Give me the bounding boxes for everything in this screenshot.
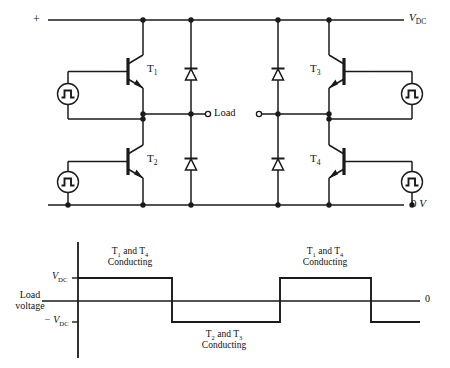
y-axis-label-line2: voltage bbox=[15, 300, 44, 311]
pulse-source-icon-g3 bbox=[402, 84, 423, 105]
t4-letter: T bbox=[310, 152, 317, 164]
ann3-line2: Conducting bbox=[303, 257, 347, 267]
transistor-label-T4: T4 bbox=[310, 153, 320, 167]
top-rail-label-v: V bbox=[409, 11, 416, 23]
ann2-line2: Conducting bbox=[202, 340, 246, 350]
pulse-source-icon-g2 bbox=[58, 172, 79, 193]
t1-letter: T bbox=[147, 62, 154, 74]
transistor-label-T2: T2 bbox=[147, 153, 157, 167]
circuit-and-waveform-svg bbox=[0, 0, 450, 368]
t1-index: 1 bbox=[154, 68, 158, 77]
open-terminal-icon-right bbox=[256, 111, 261, 116]
waveform-tick-positive: VDC bbox=[52, 271, 68, 284]
ann1-line2: Conducting bbox=[108, 257, 152, 267]
transistor-T2 bbox=[80, 145, 143, 178]
waveform-annotation-1: T1 and T4 Conducting bbox=[90, 247, 170, 268]
t4-index: 4 bbox=[317, 158, 321, 167]
transistor-label-T1: T1 bbox=[147, 63, 157, 77]
load-label: Load bbox=[214, 108, 236, 119]
top-rail-label-sub: DC bbox=[416, 17, 426, 26]
waveform-y-axis-label: Load voltage bbox=[8, 289, 52, 311]
figure-canvas: + VDC 0 V T1 T2 T3 T4 Load Load voltage … bbox=[0, 0, 450, 368]
top-rail-label: VDC bbox=[409, 12, 426, 26]
ann1-mid: and T bbox=[121, 246, 145, 256]
waveform-tick-negative: − VDC bbox=[44, 315, 69, 328]
diode-icon-d2 bbox=[185, 159, 198, 171]
waveform-trace bbox=[78, 278, 420, 322]
transistor-T3 bbox=[329, 55, 372, 88]
junction-dots bbox=[65, 17, 414, 207]
bottom-rail-label-text: 0 bbox=[411, 197, 419, 209]
transistor-T1 bbox=[105, 55, 143, 88]
waveform-zero-label: 0 bbox=[425, 294, 430, 304]
pulse-source-icon-g4 bbox=[402, 172, 423, 193]
t3-letter: T bbox=[310, 62, 317, 74]
diode-icon-d4 bbox=[272, 159, 285, 171]
pulse-source-icon-g1 bbox=[58, 84, 79, 105]
t3-index: 3 bbox=[317, 68, 321, 77]
diode-icon-d3 bbox=[272, 69, 285, 81]
tick-neg-v: − V bbox=[44, 314, 59, 325]
positive-rail-marker: + bbox=[33, 13, 40, 25]
transistor-label-T3: T3 bbox=[310, 63, 320, 77]
ann2-mid: and T bbox=[215, 329, 239, 339]
bottom-rail-label: 0 V bbox=[411, 198, 426, 209]
tick-neg-sub: DC bbox=[59, 320, 68, 327]
tick-pos-sub: DC bbox=[58, 276, 67, 283]
t2-letter: T bbox=[147, 152, 154, 164]
t2-index: 2 bbox=[154, 158, 158, 167]
bottom-rail-label-unit: V bbox=[419, 197, 426, 209]
transistor-T4 bbox=[329, 145, 397, 178]
y-axis-label-line1: Load bbox=[20, 289, 41, 300]
open-terminal-icon-left bbox=[205, 111, 210, 116]
diode-icon-d1 bbox=[185, 69, 198, 81]
waveform-annotation-2: T2 and T3 Conducting bbox=[184, 330, 264, 351]
waveform-annotation-3: T1 and T4 Conducting bbox=[285, 247, 365, 268]
ann3-mid: and T bbox=[316, 246, 340, 256]
